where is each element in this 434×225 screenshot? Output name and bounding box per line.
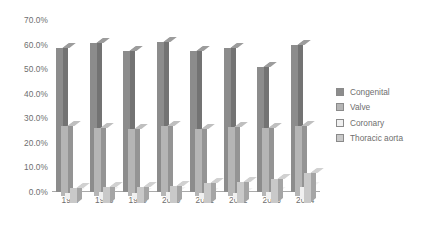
bar-top-face xyxy=(297,40,311,45)
y-axis-tick-label: 20.0% xyxy=(24,138,48,148)
legend-swatch-icon xyxy=(336,119,344,127)
bar-top-face xyxy=(263,62,277,67)
legend-swatch-icon xyxy=(336,88,344,96)
y-axis-tick-label: 30.0% xyxy=(24,113,48,123)
bar-valve xyxy=(61,126,68,196)
bar-top-face xyxy=(129,46,143,51)
bar-top-face xyxy=(62,43,76,48)
legend-item-label: Thoracic aorta xyxy=(350,133,403,143)
bar-thoracic-aorta xyxy=(103,187,110,203)
bar-top-face xyxy=(163,37,177,42)
y-axis-tick-label: 70.0% xyxy=(24,15,48,25)
bar-top-face xyxy=(234,122,248,127)
plot-area xyxy=(52,20,320,192)
bar-group xyxy=(186,20,220,192)
bar-front-face xyxy=(228,127,235,196)
chart-legend: CongenitalValveCoronaryThoracic aorta xyxy=(336,84,432,146)
bar-thoracic-aorta xyxy=(204,183,211,203)
bar-top-face xyxy=(230,43,244,48)
bar-front-face xyxy=(161,126,168,196)
legend-swatch-icon xyxy=(336,103,344,111)
bar-front-face xyxy=(103,187,110,203)
bar-top-face xyxy=(311,168,325,173)
y-axis-tick-label: 50.0% xyxy=(24,64,48,74)
legend-item-label: Congenital xyxy=(350,87,390,97)
bar-group xyxy=(86,20,120,192)
bar-side-face xyxy=(311,169,316,202)
bar-valve xyxy=(161,126,168,196)
bar-top-face xyxy=(301,121,315,126)
bar-top-face xyxy=(268,123,282,128)
bar-front-face xyxy=(70,188,77,203)
bar-front-face xyxy=(295,126,302,196)
bar-side-face xyxy=(168,122,173,196)
bar-front-face xyxy=(128,129,135,195)
bar-valve xyxy=(128,129,135,195)
bar-side-face xyxy=(68,122,73,196)
bar-valve xyxy=(195,129,202,195)
legend-item[interactable]: Congenital xyxy=(336,84,432,100)
y-axis-tick-label: 10.0% xyxy=(24,162,48,172)
bar-front-face xyxy=(304,173,311,202)
bar-group xyxy=(119,20,153,192)
bar-front-face xyxy=(61,126,68,196)
bar-thoracic-aorta xyxy=(70,188,77,203)
bar-group xyxy=(220,20,254,192)
bar-top-face xyxy=(100,123,114,128)
bar-front-face xyxy=(170,186,177,203)
bar-front-face xyxy=(204,183,211,203)
bar-front-face xyxy=(94,128,101,196)
bar-top-face xyxy=(134,124,148,129)
bar-side-face xyxy=(278,176,283,203)
bar-top-face xyxy=(67,121,81,126)
bar-front-face xyxy=(137,187,144,203)
bar-front-face xyxy=(237,182,244,203)
y-axis-tick-label: 40.0% xyxy=(24,89,48,99)
bar-valve xyxy=(295,126,302,196)
legend-item[interactable]: Thoracic aorta xyxy=(336,131,432,147)
bar-thoracic-aorta xyxy=(304,173,311,202)
bar-top-face xyxy=(167,121,181,126)
bar-top-face xyxy=(196,46,210,51)
bar-valve xyxy=(228,127,235,196)
y-axis-tick-labels: 0.0%10.0%20.0%30.0%40.0%50.0%60.0%70.0% xyxy=(0,20,48,192)
bar-valve xyxy=(262,128,269,196)
legend-item[interactable]: Valve xyxy=(336,100,432,116)
bar-group xyxy=(153,20,187,192)
bar-side-face xyxy=(135,125,140,195)
y-axis-tick-label: 0.0% xyxy=(29,187,48,197)
bar-thoracic-aorta xyxy=(271,179,278,202)
bar-thoracic-aorta xyxy=(170,186,177,203)
bar-thoracic-aorta xyxy=(137,187,144,203)
bar-side-face xyxy=(101,124,106,195)
bar-front-face xyxy=(271,179,278,202)
bar-group xyxy=(52,20,86,192)
bar-top-face xyxy=(96,38,110,43)
legend-item-label: Valve xyxy=(350,102,370,112)
column-chart: 0.0%10.0%20.0%30.0%40.0%50.0%60.0%70.0% … xyxy=(0,0,434,225)
bar-front-face xyxy=(262,128,269,196)
legend-item[interactable]: Coronary xyxy=(336,115,432,131)
bar-valve xyxy=(94,128,101,196)
bar-thoracic-aorta xyxy=(237,182,244,203)
bar-front-face xyxy=(195,129,202,195)
legend-swatch-icon xyxy=(336,134,344,142)
bar-group xyxy=(287,20,321,192)
bar-group xyxy=(253,20,287,192)
legend-item-label: Coronary xyxy=(350,118,384,128)
bar-top-face xyxy=(201,124,215,129)
y-axis-tick-label: 60.0% xyxy=(24,40,48,50)
